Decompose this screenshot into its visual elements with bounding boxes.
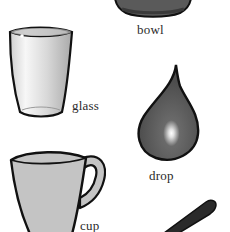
bowl-illustration (112, 0, 194, 20)
cup-label: cup (80, 219, 99, 232)
bowl-icon (112, 0, 194, 20)
glass-icon (6, 24, 74, 120)
bowl-label: bowl (137, 23, 164, 36)
glass-illustration (6, 24, 74, 120)
drop-illustration (134, 62, 202, 162)
spoon-illustration (158, 196, 220, 232)
drop-icon (134, 62, 202, 162)
drop-label: drop (149, 169, 174, 182)
spoon-handle-icon (158, 196, 220, 232)
glass-label: glass (72, 99, 99, 112)
